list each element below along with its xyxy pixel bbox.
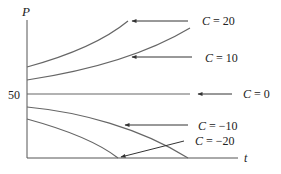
y-axis-label: P <box>21 4 30 19</box>
label-c0: C = 0 <box>243 87 270 101</box>
arrow-cm20 <box>121 141 184 157</box>
curve-c20 <box>27 21 128 67</box>
y-tick-50: 50 <box>8 88 20 102</box>
curve-c10 <box>27 28 190 80</box>
label-c20: C = 20 <box>202 14 235 28</box>
solution-curves-chart: P t 50 C = 20 C = 10 C = 0 C = −10 C = −… <box>0 0 281 174</box>
curve-cm20 <box>27 119 118 158</box>
label-c10: C = 10 <box>205 51 238 65</box>
x-axis-label: t <box>244 151 248 165</box>
label-cm10: C = −10 <box>198 119 238 133</box>
label-cm20: C = −20 <box>195 134 235 148</box>
